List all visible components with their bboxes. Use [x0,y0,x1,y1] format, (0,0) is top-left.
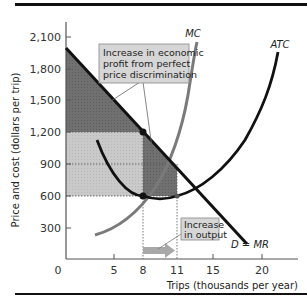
profit-note-leader-1 [108,82,140,103]
y-tick-label: 1,200 [30,126,62,139]
point-q8-atc600 [140,193,147,200]
x-tick-label: 15 [206,264,220,277]
x-axis-title: Trips (thousands per year) [166,280,298,291]
top-rule [15,3,307,6]
y-tick-label: 1,800 [30,63,62,76]
original-profit-area [66,132,143,196]
y-axis-title: Price and cost (dollars per trip) [10,72,21,227]
chart: 2,100 1,800 1,500 1,200 900 600 300 0 5 … [0,0,307,303]
point-q8-p1200 [140,129,147,136]
profit-note-line: profit from perfect [103,58,191,69]
x-tick-label: 0 [55,264,62,277]
x-tick-label: 11 [170,264,184,277]
x-tick-label: 5 [111,264,118,277]
y-tick-label: 2,100 [30,31,62,44]
x-tick-label: 8 [140,264,147,277]
bottom-rule [15,293,307,295]
x-ticks [114,254,262,259]
atc-label: ATC [269,39,289,50]
point-q11-atc600 [175,194,180,199]
y-tick-label: 600 [40,190,61,203]
output-note-line: in output [184,229,227,240]
mc-label: MC [185,28,201,39]
y-tick-label: 900 [40,158,61,171]
profit-note-line: Increase in economic [103,47,204,58]
output-arrow-head [165,243,175,258]
profit-note-line: price discrimination [103,69,197,80]
y-tick-label: 1,500 [30,94,62,107]
output-arrow-shaft [143,247,165,254]
y-tick-label: 300 [40,222,61,235]
demand-label: D = MR [231,239,269,250]
x-tick-label: 20 [255,264,269,277]
